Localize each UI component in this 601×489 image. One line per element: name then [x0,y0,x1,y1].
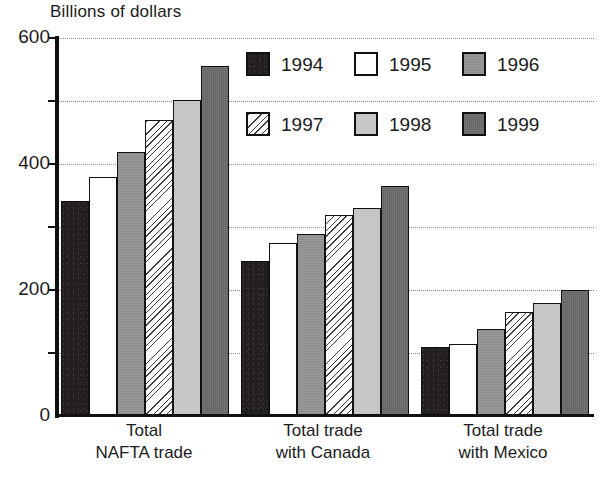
legend-entry-1995[interactable]: 1995 [354,52,431,76]
category-label-mexico-line1: Total trade [418,420,588,442]
category-label-nafta: Total NAFTA trade [59,420,229,464]
legend-label-1997: 1997 [281,115,323,134]
bar-1995-nafta [89,177,117,416]
category-label-mexico-line2: with Mexico [418,442,588,464]
legend-row-top: 1994 1995 1996 [246,52,546,94]
bar-1999-canada [381,186,409,416]
bar-1998-nafta [173,100,201,416]
bar-1996-canada [297,234,325,416]
bar-1998-mexico [533,303,561,416]
category-label-canada-line1: Total trade [238,420,408,442]
legend-swatch-1997-icon [246,112,270,136]
legend-label-1999: 1999 [497,115,539,134]
legend-swatch-1994-icon [246,52,270,76]
legend-label-1995: 1995 [389,55,431,74]
bar-1999-nafta [201,66,229,416]
category-label-canada: Total trade with Canada [238,420,408,464]
legend-label-1994: 1994 [281,55,323,74]
legend-row-bottom: 1997 1998 1999 [246,94,546,136]
category-label-nafta-line1: Total [59,420,229,442]
bar-1994-canada [241,261,269,416]
legend-entry-1999[interactable]: 1999 [462,112,539,136]
y-axis-line [55,36,59,418]
bar-1994-mexico [421,347,449,416]
legend-swatch-1996-icon [462,52,486,76]
bar-1995-canada [269,243,297,416]
gridline-600 [59,38,594,39]
legend-label-1998: 1998 [389,115,431,134]
y-axis-label-400: 400 [4,152,50,174]
bar-1997-canada [325,215,353,416]
y-axis-label-600: 600 [4,26,50,48]
bar-1996-mexico [477,329,505,416]
legend-entry-1994[interactable]: 1994 [246,52,323,76]
legend-entry-1997[interactable]: 1997 [246,112,323,136]
y-tick-300 [48,226,55,228]
legend-entry-1998[interactable]: 1998 [354,112,431,136]
y-tick-100 [48,352,55,354]
y-axis-label-200: 200 [4,278,50,300]
bar-1996-nafta [117,152,145,416]
bar-1997-mexico [505,312,533,416]
category-label-mexico: Total trade with Mexico [418,420,588,464]
bar-1995-mexico [449,344,477,416]
legend: 1994 1995 1996 1997 1998 1999 [246,52,546,136]
y-tick-500 [48,100,55,102]
x-axis-line [55,414,594,417]
legend-swatch-1999-icon [462,112,486,136]
bar-1999-mexico [561,290,589,416]
bar-1997-nafta [145,120,173,416]
bar-1998-canada [353,208,381,416]
bar-1994-nafta [61,201,89,416]
category-label-nafta-line2: NAFTA trade [59,442,229,464]
legend-swatch-1998-icon [354,112,378,136]
bar-chart: Billions of dollars 600 400 200 0 1994 [0,0,601,489]
legend-label-1996: 1996 [497,55,539,74]
legend-swatch-1995-icon [354,52,378,76]
legend-entry-1996[interactable]: 1996 [462,52,539,76]
chart-title: Billions of dollars [50,2,181,22]
category-label-canada-line2: with Canada [238,442,408,464]
y-axis-label-0: 0 [4,404,50,426]
